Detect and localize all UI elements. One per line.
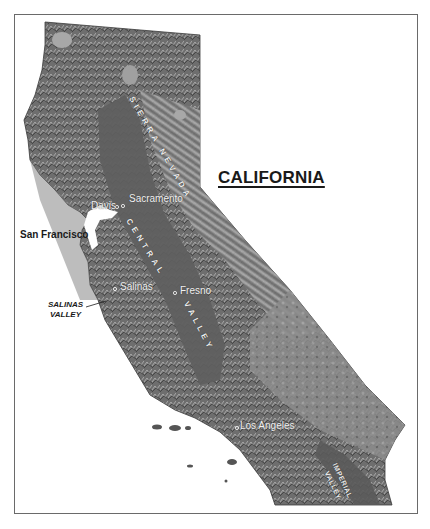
salinas-valley-line2: VALLEY <box>48 310 83 320</box>
map-title: CALIFORNIA <box>218 168 325 188</box>
city-label-davis: Davis <box>91 200 116 211</box>
salinas-valley-line1: SALINAS <box>48 300 83 310</box>
city-label-fresno: Fresno <box>180 285 211 296</box>
city-label-salinas: Salinas <box>120 281 153 292</box>
city-label-los-angeles: Los Angeles <box>240 420 295 431</box>
region-label-salinas-valley: SALINAS VALLEY <box>48 300 83 320</box>
city-label-sacramento: Sacramento <box>129 193 183 204</box>
city-label-san-francisco: San Francisco <box>20 229 88 240</box>
california-relief-map <box>0 0 430 529</box>
